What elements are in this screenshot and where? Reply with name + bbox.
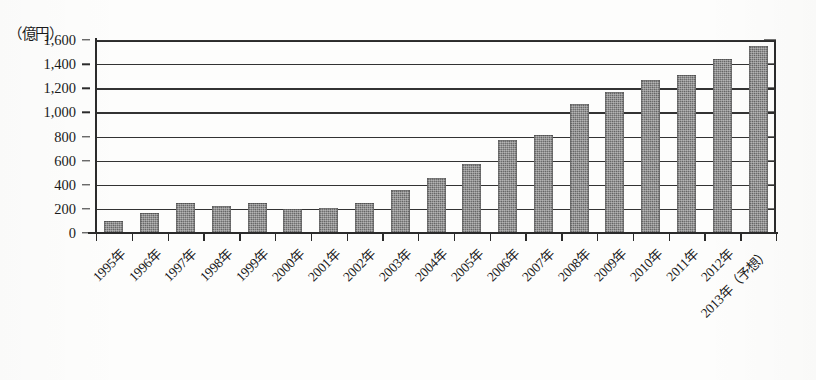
x-tick — [633, 233, 634, 241]
x-category-label: 1995年 — [0, 247, 128, 380]
bar — [641, 80, 660, 233]
y-tick-stub — [82, 63, 90, 64]
bar — [677, 75, 696, 233]
x-tick — [454, 233, 455, 241]
y-axis-tick-labels: 02004006008001,0001,2001,4001,600 — [0, 40, 88, 233]
y-tick-stub — [82, 136, 90, 137]
y-tick-stub — [82, 112, 90, 113]
y-tick-stub — [82, 39, 90, 40]
bar — [283, 209, 302, 233]
x-tick — [418, 233, 419, 241]
y-tick-label: 800 — [54, 129, 76, 144]
x-tick — [168, 233, 169, 241]
x-tick — [561, 233, 562, 241]
x-tick — [311, 233, 312, 241]
x-tick — [382, 233, 383, 241]
bar — [534, 135, 553, 233]
bar — [176, 203, 195, 233]
x-tick — [669, 233, 670, 241]
y-tick-stub — [82, 208, 90, 209]
y-tick-label: 0 — [69, 226, 76, 241]
bar — [427, 178, 446, 233]
y-tick-label: 400 — [54, 178, 76, 193]
bar — [462, 164, 481, 233]
y-tick-label: 1,200 — [43, 81, 76, 96]
x-tick — [203, 233, 204, 241]
y-axis-line — [95, 38, 97, 234]
x-tick — [275, 233, 276, 241]
bar — [713, 59, 732, 233]
y-tick-stub — [82, 160, 90, 161]
x-tick — [597, 233, 598, 241]
x-tick — [132, 233, 133, 241]
x-tick — [704, 233, 705, 241]
y-tick-label: 1,000 — [43, 105, 76, 120]
bar — [570, 104, 589, 233]
bar — [104, 221, 123, 233]
bar — [391, 190, 410, 233]
x-axis-ticks — [96, 233, 786, 242]
x-tick — [96, 233, 97, 241]
x-tick — [776, 233, 777, 241]
bar — [248, 203, 267, 233]
y-tick-label: 1,400 — [43, 57, 76, 72]
y-tick-label: 200 — [54, 202, 76, 217]
bar — [212, 206, 231, 233]
bar — [355, 203, 374, 233]
bar — [605, 92, 624, 233]
bar — [749, 46, 768, 233]
y-tick-label: 1,600 — [43, 33, 76, 48]
plot-area — [96, 40, 776, 233]
bar — [140, 213, 159, 234]
y-tick-stub — [82, 88, 90, 89]
bar-chart-figure: （億円） 02004006008001,0001,2001,4001,600 1… — [0, 0, 816, 380]
bar — [498, 140, 517, 233]
x-tick — [740, 233, 741, 241]
bar-series — [96, 40, 776, 233]
x-tick — [347, 233, 348, 241]
x-tick — [239, 233, 240, 241]
y-tick-stub — [82, 184, 90, 185]
bar — [319, 208, 338, 233]
x-tick — [525, 233, 526, 241]
y-tick-label: 600 — [54, 153, 76, 168]
x-tick — [490, 233, 491, 241]
